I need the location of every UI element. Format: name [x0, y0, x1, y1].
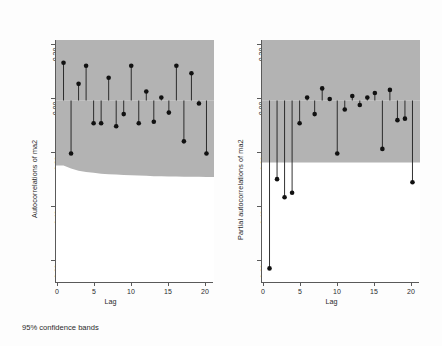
data-point[interactable] — [267, 266, 272, 271]
data-point[interactable] — [182, 139, 187, 144]
acf-xtick-0: 0 — [47, 288, 67, 295]
data-point[interactable] — [174, 63, 179, 68]
data-point[interactable] — [114, 124, 119, 129]
pacf-x-axis-label: Lag — [221, 297, 442, 306]
pacf-ytickmark-3 — [257, 206, 261, 207]
data-point[interactable] — [335, 151, 340, 156]
pacf-xtick-0: 0 — [253, 288, 273, 295]
acf-ytickmark-4 — [51, 260, 55, 261]
data-point[interactable] — [373, 91, 378, 96]
data-point[interactable] — [350, 94, 355, 99]
data-point[interactable] — [69, 151, 74, 156]
data-point[interactable] — [121, 112, 126, 117]
data-point[interactable] — [358, 103, 363, 108]
acf-ytickmark-2 — [51, 152, 55, 153]
pacf-xtickmark-2 — [337, 282, 338, 286]
data-point[interactable] — [152, 119, 157, 124]
data-point[interactable] — [395, 118, 400, 123]
confidence-band-footnote: 95% confidence bands — [22, 323, 99, 332]
data-point[interactable] — [84, 63, 89, 68]
acf-ytickmark-3 — [51, 206, 55, 207]
data-point[interactable] — [342, 107, 347, 112]
data-point[interactable] — [144, 89, 149, 94]
confidence-band — [56, 40, 214, 177]
acf-xtick-4: 20 — [195, 288, 215, 295]
pacf-xtickmark-4 — [411, 282, 412, 286]
data-point[interactable] — [204, 151, 209, 156]
acf-xtickmark-0 — [57, 282, 58, 286]
data-point[interactable] — [327, 97, 332, 102]
acf-ytickmark-0 — [51, 44, 55, 45]
data-point[interactable] — [136, 121, 141, 126]
acf-xtickmark-2 — [131, 282, 132, 286]
data-point[interactable] — [290, 190, 295, 195]
data-point[interactable] — [99, 121, 104, 126]
pacf-x-axis-line — [261, 282, 419, 283]
data-point[interactable] — [91, 121, 96, 126]
acf-x-axis-label: Lag — [0, 297, 221, 306]
pacf-xtick-4: 20 — [401, 288, 421, 295]
pacf-xtickmark-0 — [263, 282, 264, 286]
acf-xtick-3: 15 — [158, 288, 178, 295]
confidence-band — [262, 40, 420, 163]
pacf-xtick-1: 5 — [290, 288, 310, 295]
data-point[interactable] — [282, 195, 287, 200]
data-point[interactable] — [275, 177, 280, 182]
data-point[interactable] — [305, 95, 310, 100]
acf-xtickmark-4 — [205, 282, 206, 286]
data-point[interactable] — [388, 88, 393, 93]
pacf-y-axis-label: Partial autocorrelations of ma2 — [236, 139, 245, 240]
acf-panel: Autocorrelations of ma2 0.20 0.00 -0.20 … — [0, 0, 221, 346]
acf-xtickmark-1 — [94, 282, 95, 286]
data-point[interactable] — [365, 95, 370, 100]
data-point[interactable] — [410, 180, 415, 185]
data-point[interactable] — [189, 71, 194, 76]
data-point[interactable] — [61, 60, 66, 65]
acf-xtick-2: 10 — [121, 288, 141, 295]
pacf-ytickmark-1 — [257, 98, 261, 99]
pacf-ytickmark-4 — [257, 260, 261, 261]
pacf-ytickmark-0 — [257, 44, 261, 45]
pacf-xtick-2: 10 — [327, 288, 347, 295]
pacf-plot-area — [262, 40, 420, 282]
acf-xtickmark-3 — [168, 282, 169, 286]
data-point[interactable] — [129, 63, 134, 68]
pacf-xtickmark-3 — [374, 282, 375, 286]
pacf-ytickmark-2 — [257, 152, 261, 153]
data-point[interactable] — [106, 76, 111, 81]
data-point[interactable] — [159, 95, 164, 100]
correlogram-figure: Autocorrelations of ma2 0.20 0.00 -0.20 … — [0, 0, 442, 346]
data-point[interactable] — [320, 86, 325, 91]
acf-xtick-1: 5 — [84, 288, 104, 295]
data-point[interactable] — [297, 121, 302, 126]
acf-plot-area — [56, 40, 214, 282]
data-point[interactable] — [403, 116, 408, 121]
acf-y-axis-label: Autocorrelations of ma2 — [30, 140, 39, 218]
data-point[interactable] — [312, 112, 317, 117]
data-point[interactable] — [76, 82, 81, 87]
acf-x-axis-line — [55, 282, 213, 283]
pacf-xtickmark-1 — [300, 282, 301, 286]
data-point[interactable] — [167, 110, 172, 115]
data-point[interactable] — [197, 101, 202, 106]
pacf-xtick-3: 15 — [364, 288, 384, 295]
pacf-panel: Partial autocorrelations of ma2 0.20 0.0… — [221, 0, 442, 346]
data-point[interactable] — [380, 147, 385, 152]
acf-ytickmark-1 — [51, 98, 55, 99]
